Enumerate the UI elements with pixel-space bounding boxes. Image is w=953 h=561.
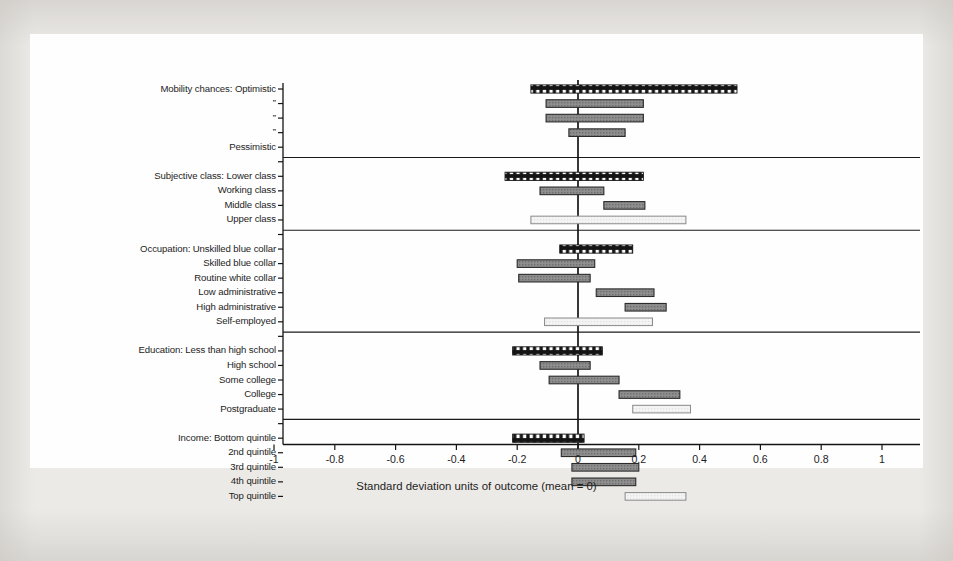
category-label: Subjective class: Lower class <box>154 171 276 181</box>
interval-bar <box>596 289 654 297</box>
category-label: Routine white collar <box>194 273 276 283</box>
category-label: ” <box>273 113 276 123</box>
category-label: Income: Bottom quintile <box>178 433 276 443</box>
category-label: ” <box>273 98 276 108</box>
interval-bar <box>531 85 737 93</box>
interval-bar <box>625 493 686 501</box>
interval-bar <box>633 405 691 413</box>
category-label: Education: Less than high school <box>138 345 276 355</box>
interval-bar <box>619 391 680 399</box>
category-label: Working class <box>218 185 276 195</box>
interval-bar <box>545 318 653 326</box>
x-tick-label: -1 <box>244 453 304 465</box>
interval-bar <box>517 260 595 268</box>
interval-bar <box>513 434 584 442</box>
interval-bar <box>540 187 604 195</box>
x-tick-label: 0.6 <box>730 453 790 465</box>
interval-bar <box>540 362 590 370</box>
category-label: Top quintile <box>229 491 276 501</box>
interval-bar <box>625 303 666 311</box>
interval-bar <box>569 129 625 137</box>
category-label: Postgraduate <box>220 404 276 414</box>
interval-bar <box>560 245 633 253</box>
category-label: Mobility chances: Optimistic <box>160 84 276 94</box>
interval-bar <box>604 202 645 210</box>
category-label: Skilled blue collar <box>203 258 276 268</box>
forest-plot-chart <box>0 0 953 561</box>
x-tick-label: -0.8 <box>305 453 365 465</box>
category-label: High administrative <box>196 302 276 312</box>
category-label: High school <box>227 360 276 370</box>
x-tick-label: 0.2 <box>609 453 669 465</box>
interval-bar <box>519 274 590 282</box>
x-tick-label: 0.8 <box>791 453 851 465</box>
x-tick-label: -0.2 <box>487 453 547 465</box>
x-tick-label: 0 <box>548 453 608 465</box>
interval-bar <box>572 464 639 472</box>
interval-bar <box>546 114 643 122</box>
category-label: Occupation: Unskilled blue collar <box>140 244 276 254</box>
category-label: Low administrative <box>198 287 276 297</box>
interval-bar <box>505 172 643 180</box>
category-label: ” <box>273 127 276 137</box>
interval-bar <box>546 100 643 108</box>
category-label: Pessimistic <box>229 142 276 152</box>
interval-bar <box>513 347 603 355</box>
interval-bar <box>531 216 686 224</box>
category-label: Some college <box>219 375 276 385</box>
category-label: Self-employed <box>216 316 276 326</box>
category-label: College <box>244 389 276 399</box>
category-label: Middle class <box>224 200 276 210</box>
figure-page: Mobility chances: Optimistic”””Pessimist… <box>0 0 953 561</box>
x-axis-title: Standard deviation units of outcome (mea… <box>0 480 953 492</box>
x-tick-label: 1 <box>852 453 912 465</box>
category-label: Upper class <box>226 214 276 224</box>
x-tick-label: -0.4 <box>426 453 486 465</box>
x-tick-label: -0.6 <box>366 453 426 465</box>
x-tick-label: 0.4 <box>670 453 730 465</box>
interval-bar <box>549 376 619 384</box>
